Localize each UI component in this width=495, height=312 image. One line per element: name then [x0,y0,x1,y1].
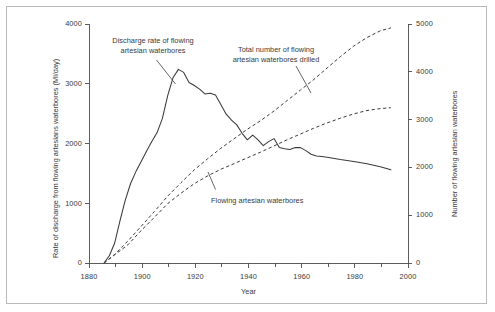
x-tick-label-1900: 1900 [127,272,157,281]
leader-total [296,66,311,93]
leader-bores [208,172,216,190]
y-tick-label-4000: 4000 [60,19,82,28]
x-tick-label-1980: 1980 [340,272,370,281]
y-tick-label-0: 0 [60,258,82,267]
series-discharge-rate [104,69,391,263]
y2-tick-label-4000: 4000 [416,67,433,76]
y-axis-left-ticks [85,24,89,263]
y-axis-title-left: Rate of discharge from flowing artesians… [51,59,60,258]
leader-discharge [157,60,176,84]
annotation-leader-lines [157,60,312,190]
x-tick-label-1940: 1940 [234,272,264,281]
x-tick-label-2000: 2000 [393,272,423,281]
chart-figure: 4000 3000 2000 1000 0 5000 4000 3000 200… [0,0,495,312]
y2-tick-label-0: 0 [416,258,420,267]
annotation-flowing-waterbores-line1: Flowing artesian waterbores [211,196,315,206]
annotation-discharge-rate: Discharge rate of flowing artesian water… [97,36,209,55]
x-tick-label-1960: 1960 [287,272,317,281]
y-axis-right-ticks [408,24,412,263]
annotation-discharge-rate-line2: artesian waterbores [97,46,209,56]
y2-tick-label-5000: 5000 [416,19,433,28]
x-tick-label-1920: 1920 [180,272,210,281]
y-tick-label-2000: 2000 [60,139,82,148]
annotation-total-drilled-line1: Total number of flowing [212,45,340,55]
series-flowing-waterbores [104,108,391,263]
annotation-discharge-rate-line1: Discharge rate of flowing [97,36,209,46]
y-tick-label-3000: 3000 [60,79,82,88]
y-axis-title-right: Number of flowing artesian waterbores [450,90,459,217]
y2-tick-label-3000: 3000 [416,115,433,124]
x-tick-label-1880: 1880 [74,272,104,281]
x-axis-title: Year [234,287,264,296]
x-axis-ticks [89,263,408,268]
annotation-total-drilled-line2: artesian waterbores drilled [212,55,340,65]
y-tick-label-1000: 1000 [60,199,82,208]
y2-tick-label-1000: 1000 [416,210,433,219]
y2-tick-label-2000: 2000 [416,162,433,171]
annotation-total-drilled: Total number of flowing artesian waterbo… [212,45,340,64]
annotation-flowing-waterbores: Flowing artesian waterbores [211,196,315,206]
